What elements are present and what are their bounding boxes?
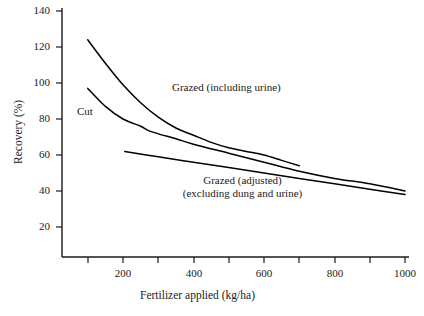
annotation-grazed-adjusted-line2: (excluding dung and urine) xyxy=(150,187,335,200)
y-tick-label-120: 120 xyxy=(24,41,50,52)
x-tick-label-600: 600 xyxy=(244,268,284,279)
y-tick-label-100: 100 xyxy=(24,77,50,88)
y-tick-label-80: 80 xyxy=(24,113,50,124)
x-axis-title: Fertilizer applied (kg/ha) xyxy=(140,289,255,301)
data-series-lines xyxy=(88,40,405,195)
y-tick-label-60: 60 xyxy=(24,149,50,160)
y-tick-label-20: 20 xyxy=(24,221,50,232)
y-axis-title: Recovery (%) xyxy=(12,100,24,164)
annotation-cut: Cut xyxy=(77,105,93,118)
x-tick-label-200: 200 xyxy=(103,268,143,279)
y-axis-ticks xyxy=(56,11,62,227)
y-tick-label-140: 140 xyxy=(24,5,50,16)
axis-lines xyxy=(62,8,409,257)
x-tick-label-800: 800 xyxy=(315,268,355,279)
x-tick-label-400: 400 xyxy=(174,268,214,279)
recovery-vs-fertilizer-chart: 140 120 100 80 60 40 20 200 400 600 800 … xyxy=(0,0,424,316)
x-axis-ticks xyxy=(88,257,405,263)
y-tick-label-40: 40 xyxy=(24,185,50,196)
x-tick-label-1000: 1000 xyxy=(385,268,424,279)
annotation-grazed-including-urine: Grazed (including urine) xyxy=(172,81,281,94)
annotation-grazed-adjusted-line1: Grazed (adjusted) xyxy=(150,174,335,187)
series-line-grazed-including-urine xyxy=(88,40,300,166)
